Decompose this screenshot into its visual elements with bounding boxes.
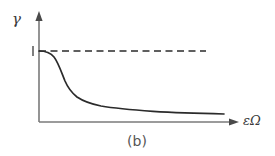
y-axis: [35, 11, 42, 122]
figure-caption: (b): [127, 133, 147, 149]
y-axis-label: γ: [12, 10, 21, 28]
figure-panel-b: γ εΩ (b): [0, 0, 275, 156]
plot-area: γ εΩ (b): [0, 0, 275, 156]
gamma-curve: [39, 51, 224, 114]
x-axis: [39, 118, 239, 125]
x-axis-label: εΩ: [243, 113, 261, 128]
x-axis-arrowhead: [229, 118, 239, 125]
y-axis-arrowhead: [35, 11, 42, 21]
